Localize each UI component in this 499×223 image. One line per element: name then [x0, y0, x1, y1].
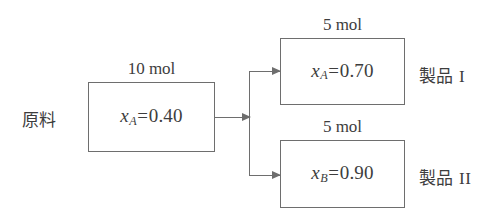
- product-2-side-label: 製品II: [419, 164, 471, 189]
- feed-amount-label: 10 mol: [88, 59, 215, 79]
- product-1-roman-numeral: I: [459, 67, 465, 86]
- feed-box: xA=0.40: [88, 82, 215, 152]
- feed-composition-symbol: x: [120, 105, 129, 126]
- feed-side-label: 原料: [22, 106, 56, 131]
- product-1-composition: xA=0.70: [311, 60, 374, 84]
- product-2-composition-equals: =: [328, 162, 339, 183]
- feed-composition-subscript: A: [129, 114, 137, 128]
- feed-composition-value: 0.40: [149, 105, 183, 126]
- product-2-composition-symbol: x: [311, 162, 320, 183]
- feed-composition: xA=0.40: [120, 105, 183, 129]
- feed-composition-equals: =: [137, 105, 148, 126]
- product-1-composition-equals: =: [328, 60, 339, 81]
- product-1-side-label: 製品I: [419, 62, 465, 87]
- splitter-vertical-line: [249, 71, 250, 176]
- product-2-box: xB=0.90: [280, 140, 405, 208]
- process-flow-diagram: 原料 10 mol xA=0.40 5 mol xA=0.70 製品I 5 mo…: [0, 0, 499, 223]
- product-2-composition: xB=0.90: [311, 162, 374, 186]
- product-2-roman-numeral: II: [459, 169, 471, 188]
- product-2-composition-value: 0.90: [340, 162, 374, 183]
- product-1-box: xA=0.70: [280, 38, 405, 105]
- product-2-label-text: 製品: [419, 169, 453, 188]
- product-2-amount-label: 5 mol: [280, 117, 405, 137]
- product-1-composition-symbol: x: [311, 60, 320, 81]
- product-1-composition-subscript: A: [320, 68, 328, 82]
- product-1-composition-value: 0.70: [340, 60, 374, 81]
- product-1-label-text: 製品: [419, 67, 453, 86]
- product-1-amount-label: 5 mol: [280, 15, 405, 35]
- product-2-composition-subscript: B: [320, 171, 328, 185]
